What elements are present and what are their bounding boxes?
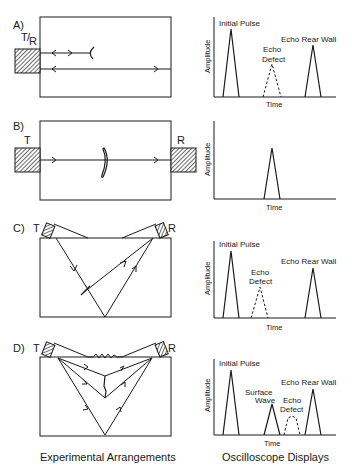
panel-b: B) T R Amplitude Time [13,120,336,212]
peak-label: Defect [280,405,304,414]
caption-oscilloscope-displays: Oscilloscope Displays [222,451,329,463]
peak-echo-defect [284,416,300,435]
transducer-tr [15,49,40,73]
ultrasonic-testing-figure: A) T / R Amplitude Time Initial Pulse Ec… [0,0,352,475]
peak-echo-rear-wall [305,389,321,435]
peak-label: Initial Pulse [219,359,260,368]
peak-surface-wave [264,404,280,435]
peak-label: Wave [255,396,276,405]
peak-echo-defect [263,64,281,97]
transducer-r [171,148,196,172]
svg-text:R: R [29,35,37,47]
peak-echo-rear-wall [305,45,321,97]
panel-d: D) T R Amplitude Time Initial Pulse Sur [13,342,337,448]
surface-wave [88,354,122,358]
panel-a: A) T / R Amplitude Time Initial Pulse Ec… [13,17,337,109]
wedge-t [54,343,88,357]
peak-label: Echo [251,268,270,277]
transducer-r [155,223,168,238]
transducer-r-label: R [168,222,176,234]
wedge-t [54,224,88,238]
x-axis-label: Time [266,323,282,332]
peak-label: Defect [262,55,286,64]
panel-c-label: C) [13,222,25,234]
x-axis-label: Time [264,439,280,448]
transducer-r [155,342,168,357]
defect-crack [90,47,94,59]
beam-defect-echo [83,238,153,293]
peak-label: Defect [249,277,273,286]
specimen-block [40,238,171,317]
panel-b-label: B) [13,120,24,132]
scope-a: Amplitude Time Initial Pulse Echo Defect… [203,17,337,109]
beam-shallow [58,358,152,376]
transducer-t [42,223,55,238]
transducer-t [42,342,55,357]
peak-label: Initial Pulse [219,19,260,28]
panel-a-label: A) [13,19,24,31]
y-axis-label: Amplitude [203,40,212,73]
transducer-t-label: T [33,342,40,354]
peak-echo-defect [251,287,268,318]
scope-c: Amplitude Time Initial Pulse Echo Defect… [203,240,337,332]
caption-experimental-arrangements: Experimental Arrangements [40,451,176,463]
transducer-r-label: R [168,342,176,354]
wedge-r [122,343,156,357]
peak-label: Echo Rear Wall [281,35,337,44]
transducer-t-label: T [24,134,31,146]
wedge-r [122,224,156,238]
peak-label: Echo [283,396,302,405]
peak-label: Initial Pulse [219,240,260,249]
peak-initial-pulse [223,251,239,318]
y-axis-label: Amplitude [203,143,212,176]
peak-label: Echo Rear Wall [281,378,337,387]
x-axis-label: Time [266,100,282,109]
y-axis-label: Amplitude [203,262,212,295]
transducer-t-label: T [33,222,40,234]
arrow-icon [116,407,121,412]
transducer-t [15,148,40,172]
peak-echo-rear-wall [305,268,321,318]
peak-label: Echo [263,45,282,54]
scope-d: Amplitude Time Initial Pulse Surface Wav… [203,359,337,448]
defect-crack [104,376,106,398]
peak-initial-pulse [223,370,239,435]
peak-label: Echo Rear Wall [281,257,337,266]
panel-d-label: D) [13,342,25,354]
scope-b: Amplitude Time [203,121,336,212]
transducer-r-label: R [177,134,185,146]
panel-c: C) T R Amplitude Time Initial Pulse Echo… [13,222,337,332]
defect-crack [102,148,108,177]
x-axis-label: Time [266,203,282,212]
y-axis-label: Amplitude [203,379,212,412]
arrow-up-icon [120,261,126,267]
peak-transmitted [264,148,280,199]
specimen-block [40,17,171,97]
peak-initial-pulse [223,29,239,97]
transducer-tr-label: T / R [21,31,37,47]
